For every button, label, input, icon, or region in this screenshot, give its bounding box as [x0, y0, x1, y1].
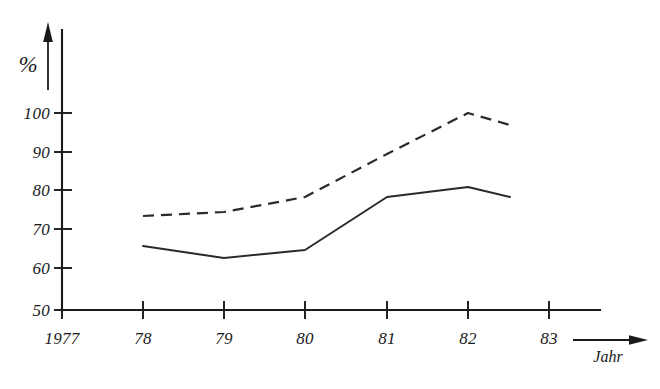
series-dashed-upper	[143, 113, 510, 216]
x-tick-label-79: 79	[215, 329, 233, 348]
y-tick-label-70: 70	[32, 220, 50, 239]
x-tick-label-78: 78	[134, 329, 152, 348]
line-chart: % 100 90 80 70 60 50 1977 78	[0, 0, 660, 389]
x-tick-label-83: 83	[540, 329, 558, 348]
x-tick-label-81: 81	[378, 329, 396, 348]
x-tick-label-1977: 1977	[44, 329, 80, 348]
x-tick-label-80: 80	[296, 329, 314, 348]
chart-container: % 100 90 80 70 60 50 1977 78	[0, 0, 660, 389]
y-tick-label-90: 90	[32, 143, 50, 162]
y-tick-label-80: 80	[32, 181, 50, 200]
y-axis-unit-label: %	[18, 52, 37, 77]
y-tick-label-60: 60	[32, 259, 50, 278]
y-tick-label-100: 100	[24, 104, 51, 123]
x-tick-label-82: 82	[459, 329, 477, 348]
x-axis-arrow-icon	[573, 335, 648, 345]
x-axis-title: Jahr	[593, 348, 623, 365]
y-axis-arrow-icon	[43, 22, 53, 90]
series-solid-lower	[143, 187, 510, 258]
y-tick-label-50: 50	[32, 301, 50, 320]
